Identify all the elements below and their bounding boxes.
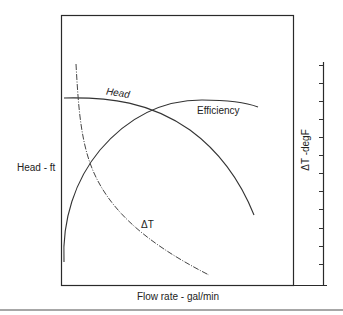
pump-curve-chart: Head Efficiency ΔT Head - ft ΔT -degF Fl… (0, 0, 343, 315)
delta-t-curve (76, 64, 209, 275)
x-axis-label: Flow rate - gal/min (137, 291, 219, 302)
right-axis-ticks (319, 66, 324, 265)
efficiency-curve-label: Efficiency (197, 105, 240, 116)
left-axis-label: Head - ft (17, 162, 56, 173)
right-axis-label: ΔT -degF (300, 129, 311, 171)
head-curve-label: Head (105, 86, 131, 100)
delta-t-curve-label: ΔT (141, 219, 154, 230)
plot-frame (62, 16, 294, 286)
efficiency-curve (64, 100, 258, 262)
